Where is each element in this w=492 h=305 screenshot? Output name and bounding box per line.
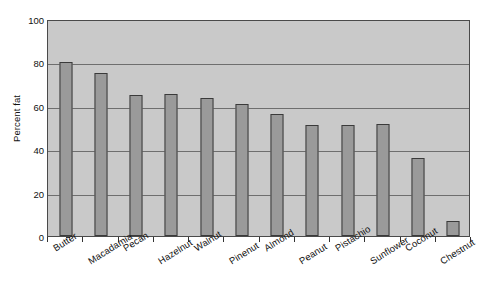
plot-area — [47, 20, 470, 237]
bar-slot — [365, 21, 400, 236]
bar-slot — [436, 21, 471, 236]
bar — [412, 158, 425, 236]
y-axis-tick-label: 100 — [22, 15, 44, 26]
x-axis-category-label: Chestnut — [438, 236, 477, 266]
bar — [130, 95, 143, 236]
bar-slot — [83, 21, 118, 236]
bar — [165, 94, 178, 236]
y-axis-tick-label: 40 — [22, 145, 44, 156]
x-axis-category-label: Hazelnut — [156, 237, 194, 267]
bar — [341, 125, 354, 236]
y-axis-title-text: Percent fat — [12, 95, 23, 142]
y-axis-tick-label: 60 — [22, 101, 44, 112]
bar — [376, 124, 389, 236]
bar-slot — [189, 21, 224, 236]
bar-slot — [119, 21, 154, 236]
y-axis-tick-labels: 020406080100 — [22, 20, 44, 237]
bar — [200, 98, 213, 236]
x-axis-category-label: Sunflower — [368, 234, 410, 266]
bar-chart: Percent fat 020406080100 ButterMacadamia… — [0, 0, 492, 305]
bar-slot — [260, 21, 295, 236]
bar-slot — [401, 21, 436, 236]
bars-group — [48, 21, 469, 236]
bar — [447, 221, 460, 236]
y-axis-tick-label: 20 — [22, 188, 44, 199]
bar-slot — [295, 21, 330, 236]
y-axis-tick-label: 80 — [22, 58, 44, 69]
bar — [59, 62, 72, 236]
bar-slot — [154, 21, 189, 236]
bar-slot — [224, 21, 259, 236]
bar — [94, 73, 107, 236]
bar-slot — [48, 21, 83, 236]
bar — [235, 104, 248, 236]
x-axis-category-labels: ButterMacadamiaPecanHazelnutWalnutPinenu… — [0, 237, 492, 305]
bar-slot — [330, 21, 365, 236]
bar — [271, 114, 284, 236]
x-axis-category-label: Pinenut — [227, 240, 261, 267]
bar — [306, 125, 319, 236]
x-axis-category-label: Peanut — [297, 241, 329, 267]
